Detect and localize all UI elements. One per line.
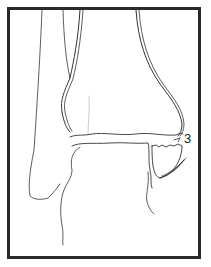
tibial-plafond bbox=[70, 133, 183, 137]
fibula-inner-line bbox=[63, 10, 70, 78]
fibula-outline bbox=[29, 10, 60, 199]
tibia-left-cortex-inner bbox=[64, 10, 83, 131]
epiphyseal-line bbox=[88, 96, 89, 134]
tibia-left-cortex bbox=[61, 10, 80, 132]
talus-dome bbox=[72, 143, 152, 188]
talus-left-side bbox=[61, 147, 80, 245]
label-arrow bbox=[174, 138, 180, 142]
fragment-label: 3 bbox=[184, 132, 191, 145]
fragment-cortex-inner bbox=[162, 158, 186, 176]
fracture-fragment bbox=[152, 144, 182, 178]
tibia-right-cortex-inner bbox=[139, 10, 184, 136]
talus-right-lower bbox=[147, 172, 154, 214]
tibia-right-cortex bbox=[136, 10, 182, 136]
ankle-drawing bbox=[0, 0, 211, 267]
